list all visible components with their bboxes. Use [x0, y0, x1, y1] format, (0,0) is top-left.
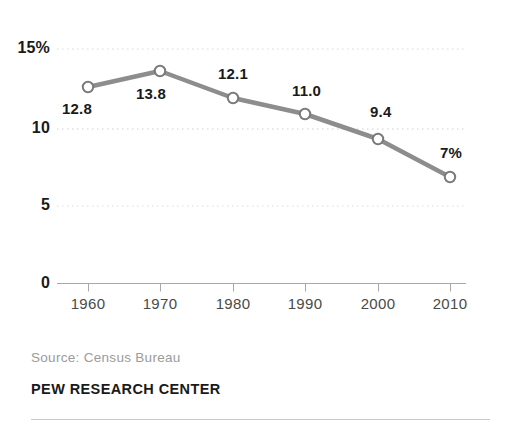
data-point-1990: [300, 109, 310, 119]
y-axis-label-15: 15%: [2, 39, 50, 57]
x-axis-label-2010: 2010: [415, 295, 485, 312]
x-axis-label-1960: 1960: [53, 295, 123, 312]
x-axis-label-2000: 2000: [343, 295, 413, 312]
x-axis-label-1970: 1970: [125, 295, 195, 312]
y-axis-label-5: 5: [2, 196, 50, 214]
brand-attribution: PEW RESEARCH CENTER: [31, 381, 221, 397]
footer-divider: [31, 419, 490, 420]
data-label-1970: 13.8: [136, 85, 166, 102]
chart-figure: 15% 10 5 0 1960 1970 1980 1990 2000 2010…: [0, 0, 506, 441]
y-axis-label-10: 10: [2, 119, 50, 137]
data-label-1990: 11.0: [292, 82, 321, 99]
data-label-2000: 9.4: [370, 103, 391, 120]
x-axis-label-1980: 1980: [198, 295, 268, 312]
data-point-1970: [155, 66, 165, 76]
data-point-2000: [373, 134, 383, 144]
data-point-2010: [445, 172, 455, 182]
data-label-1960: 12.8: [62, 100, 92, 117]
data-point-1980: [228, 93, 238, 103]
x-axis-label-1990: 1990: [270, 295, 340, 312]
source-note: Source: Census Bureau: [31, 350, 181, 365]
data-label-1980: 12.1: [218, 65, 248, 82]
data-point-1960: [83, 82, 93, 92]
data-label-2010: 7%: [440, 144, 462, 161]
line-chart-plot: [0, 0, 506, 310]
y-axis-label-0: 0: [2, 274, 50, 292]
